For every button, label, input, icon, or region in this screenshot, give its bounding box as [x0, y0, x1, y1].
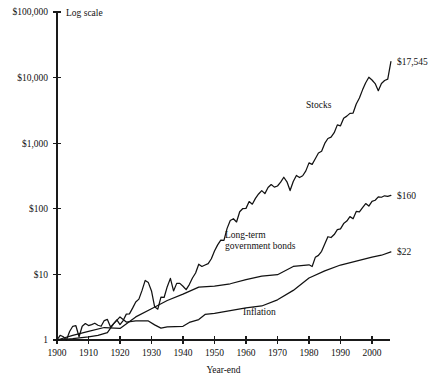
x-tick-label: 1970: [268, 348, 287, 358]
series-line-inflation: [57, 252, 391, 340]
end-value-label-stocks: $17,545: [397, 57, 428, 67]
x-tick-label: 1980: [300, 348, 319, 358]
x-tick-label: 1910: [79, 348, 98, 358]
series-label-stocks: Stocks: [306, 100, 332, 110]
y-tick-label: $1,000: [22, 139, 48, 149]
x-tick-label: 1920: [111, 348, 130, 358]
y-tick-label: 1: [43, 335, 48, 345]
series-lines: [57, 62, 391, 340]
x-tick-label: 1990: [331, 348, 350, 358]
historical-returns-chart: 1$10$100$1,000$10,000$100,000 1900191019…: [0, 0, 428, 380]
x-tick-label: 1900: [48, 348, 67, 358]
series-label-long-term-government-bonds: Long-term: [225, 230, 266, 240]
chart-svg: 1$10$100$1,000$10,000$100,000 1900191019…: [0, 0, 428, 380]
series-label-inflation: Inflation: [243, 307, 276, 317]
end-value-label-inflation: $22: [397, 247, 412, 257]
x-axis-title: Year-end: [206, 365, 240, 375]
log-scale-note: Log scale: [66, 8, 103, 18]
y-tick-label: $10,000: [17, 73, 48, 83]
series-label-long-term-government-bonds: government bonds: [225, 241, 296, 251]
y-tick-label: $100,000: [12, 7, 48, 17]
x-tick-label: 1930: [142, 348, 161, 358]
end-value-label-long-term-government-bonds: $160: [397, 191, 416, 201]
x-tick-label: 1950: [205, 348, 224, 358]
series-line-stocks: [57, 62, 391, 340]
x-tick-label: 1940: [174, 348, 193, 358]
y-axis-ticks: 1$10$100$1,000$10,000$100,000: [12, 7, 61, 345]
chart-labels: Log scaleYear-endStocksLong-termgovernme…: [66, 8, 428, 375]
y-tick-label: $10: [34, 270, 49, 280]
series-line-long-term-government-bonds: [57, 195, 391, 340]
y-tick-label: $100: [29, 204, 48, 214]
x-axis-ticks: 1900191019201930194019501960197019801990…: [48, 336, 382, 358]
x-tick-label: 2000: [363, 348, 382, 358]
x-tick-label: 1960: [237, 348, 256, 358]
